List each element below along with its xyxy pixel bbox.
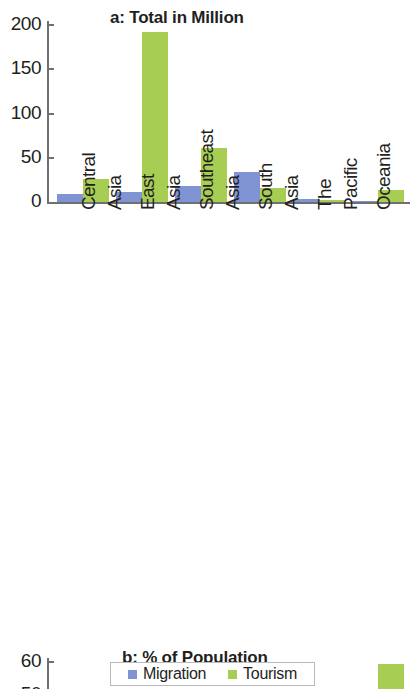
- x-axis-label-east-asia: East: [137, 174, 159, 210]
- legend-swatch-migration-icon: [128, 670, 137, 679]
- x-axis-label-central-asia: Central: [78, 153, 100, 210]
- x-axis-label-east-asia: Asia: [163, 175, 185, 210]
- x-axis-label-the-pacific: The: [314, 179, 336, 210]
- x-axis-label-southeast-asia: Asia: [222, 175, 244, 210]
- x-axis-label-southeast-asia: Southeast: [196, 130, 218, 210]
- legend-label-tourism: Tourism: [243, 665, 297, 683]
- figure-root: a: Total in Million 050100150200CentralA…: [0, 0, 416, 689]
- chart-panel-a: a: Total in Million 050100150200CentralA…: [0, 0, 416, 310]
- x-axis-label-south-asia: Asia: [281, 175, 303, 210]
- bar-tourism-oceania: [378, 664, 404, 689]
- legend-label-migration: Migration: [143, 665, 206, 683]
- chart-legend: Migration Tourism: [110, 662, 315, 686]
- x-axis-label-south-asia: South: [255, 163, 277, 210]
- x-axis-label-oceania: Oceania: [373, 143, 395, 210]
- x-axis-label-central-asia: Asia: [104, 175, 126, 210]
- legend-swatch-tourism-icon: [228, 670, 237, 679]
- x-axis-label-the-pacific: Pacific: [340, 158, 362, 210]
- legend-item-tourism: Tourism: [228, 665, 297, 683]
- legend-item-migration: Migration: [128, 665, 206, 683]
- chart-panel-b: b: % of Population 0102030405060CentralA…: [0, 320, 416, 650]
